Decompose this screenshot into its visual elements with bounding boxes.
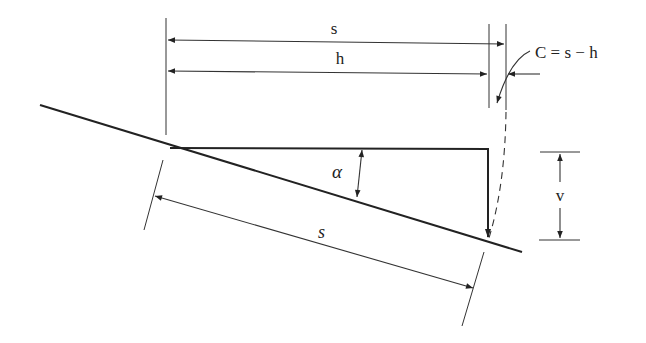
s-slope-label: s	[318, 222, 325, 242]
horizontal-line	[170, 148, 489, 149]
correction-label: C = s − h	[535, 43, 598, 62]
slope-correction-diagram: s h C = s − h α v s	[0, 0, 646, 343]
alpha-label: α	[332, 161, 343, 182]
c-leader-curve	[497, 51, 530, 103]
alpha-arrow	[357, 150, 362, 197]
s-top-label: s	[331, 19, 338, 38]
swing-arc-dashed	[489, 112, 506, 238]
s-dimension-arrow	[168, 40, 504, 44]
v-label: v	[556, 186, 565, 205]
h-label: h	[336, 49, 345, 68]
diagram-svg: s h C = s − h α v s	[0, 0, 646, 343]
h-dimension-arrow	[168, 71, 487, 74]
slope-extension-left	[144, 160, 163, 230]
slope-line	[40, 105, 522, 252]
s-slope-dimension-arrow	[155, 196, 473, 288]
slope-extension-right	[462, 252, 484, 326]
